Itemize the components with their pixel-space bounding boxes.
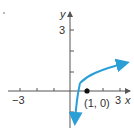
point-marker — [84, 88, 89, 93]
graph-canvas: y 3 −3 3 x (1, 0) — [0, 0, 134, 130]
y-ticks — [70, 30, 74, 112]
point-label: (1, 0) — [84, 97, 110, 109]
x-tick-label-neg3: −3 — [12, 94, 25, 106]
x-axis-label: x — [124, 94, 131, 106]
y-tick-label-3: 3 — [59, 24, 65, 36]
stray-mark — [3, 12, 5, 14]
y-axis-label: y — [59, 8, 67, 20]
curve-lower — [75, 83, 80, 122]
curve-upper — [80, 63, 126, 83]
x-tick-label-3: 3 — [115, 94, 121, 106]
